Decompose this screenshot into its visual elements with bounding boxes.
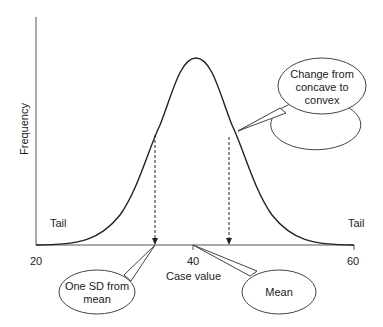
inflection-label-line3: convex bbox=[305, 94, 340, 106]
tail-left-label: Tail bbox=[50, 217, 67, 229]
x-tick-label-20: 20 bbox=[30, 255, 42, 267]
one-sd-label-line2: mean bbox=[83, 293, 111, 305]
tail-right-label: Tail bbox=[348, 217, 365, 229]
arrowhead-right bbox=[226, 238, 232, 245]
normal-distribution-diagram: Frequency 20 40 60 Case value Tail Tail … bbox=[0, 0, 383, 327]
x-tick-label-40: 40 bbox=[187, 255, 199, 267]
y-axis-label: Frequency bbox=[18, 103, 30, 155]
inflection-label-line2: concave to bbox=[295, 81, 348, 93]
x-tick-label-60: 60 bbox=[347, 255, 359, 267]
one-sd-callout-bubble bbox=[59, 270, 135, 314]
arrowhead-left bbox=[152, 238, 158, 245]
one-sd-label-line1: One SD from bbox=[65, 280, 129, 292]
one-sd-callout-tail bbox=[124, 245, 155, 281]
mean-label: Mean bbox=[265, 286, 293, 298]
inflection-label-line1: Change from bbox=[290, 68, 354, 80]
x-axis-label: Case value bbox=[166, 270, 221, 282]
